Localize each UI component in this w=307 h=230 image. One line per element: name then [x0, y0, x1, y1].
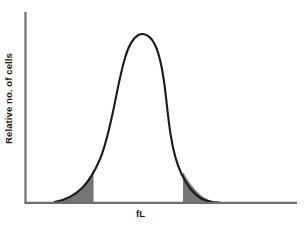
plot-area [0, 0, 307, 230]
y-axis-label-text: Relative no. of cells [3, 53, 14, 144]
y-axis-label: Relative no. of cells [0, 0, 16, 196]
distribution-figure: Relative no. of cells fL [0, 0, 307, 230]
x-axis-label: fL [0, 208, 307, 219]
lower-tail-shaded-region [55, 173, 94, 203]
x-axis-label-text: fL [136, 208, 145, 219]
distribution-curve [55, 34, 220, 203]
